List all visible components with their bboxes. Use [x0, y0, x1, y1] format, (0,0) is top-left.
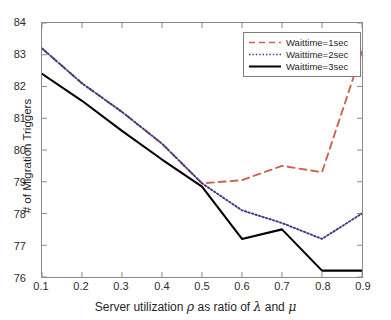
x-tick-label: 0.3: [101, 281, 141, 292]
legend-box: Waittime=1sec Waittime=2sec Waittime=3se…: [243, 32, 361, 77]
x-tick-label: 0.5: [182, 281, 222, 292]
x-tick-label: 0.6: [222, 281, 262, 292]
legend-item: Waittime=3sec: [248, 61, 356, 72]
legend-label-waittime-3sec: Waittime=3sec: [286, 62, 348, 72]
data-series-layer: [42, 48, 362, 270]
y-tick-label: 84: [0, 17, 26, 28]
legend-label-waittime-2sec: Waittime=2sec: [286, 50, 348, 60]
legend-item: Waittime=2sec: [248, 49, 356, 60]
x-tick-label: 0.8: [303, 281, 343, 292]
x-tick-label: 0.1: [21, 281, 61, 292]
figure-canvas: 84 83 82 81 80 79 78 77 76 0.1 0.2 0.3 0…: [0, 0, 391, 320]
x-tick-label: 0.7: [262, 281, 302, 292]
legend-key-waittime-2sec: [248, 49, 282, 60]
legend-label-waittime-1sec: Waittime=1sec: [286, 38, 348, 48]
x-axis-label-prefix: Server utilization: [95, 300, 187, 314]
x-axis-label-mid: as ratio of: [194, 300, 253, 314]
mu-symbol: μ: [288, 299, 296, 314]
legend-item: Waittime=1sec: [248, 37, 356, 48]
x-tick-label: 0.2: [61, 281, 101, 292]
legend-key-waittime-1sec: [248, 37, 282, 48]
x-tick-label: 0.9: [343, 281, 383, 292]
x-tick-label: 0.4: [142, 281, 182, 292]
x-axis-label: Server utilization ρ as ratio of λ and μ: [0, 300, 391, 314]
legend-key-waittime-3sec: [248, 61, 282, 72]
x-axis-label-and: and: [261, 300, 288, 314]
y-axis-label: # of Migration Triggers: [21, 41, 33, 271]
series-line-waittime-3sec: [42, 74, 362, 271]
